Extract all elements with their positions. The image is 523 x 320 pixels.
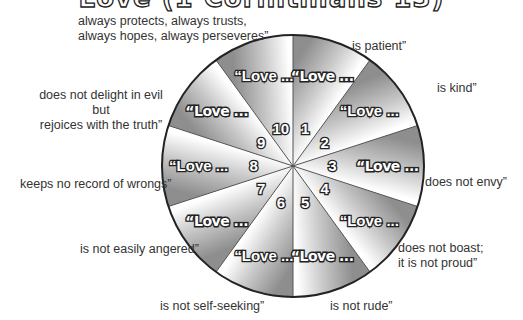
- segment-number: 4: [321, 180, 330, 197]
- segment-number: 10: [273, 120, 290, 137]
- love-label: “Love ...: [185, 103, 248, 119]
- label-segment-4: does not boast; it is not proud”: [398, 241, 483, 271]
- label-segment-1: is patient”: [352, 39, 406, 54]
- label-line: keeps no record of wrongs”: [20, 177, 171, 192]
- label-segment-2: is kind”: [437, 81, 477, 96]
- segment-number: 5: [301, 194, 309, 211]
- love-label: “Love ...: [234, 247, 293, 264]
- label-segment-7: is not easily angered”: [80, 242, 199, 257]
- label-line: is not easily angered”: [80, 242, 199, 257]
- label-segment-8: keeps no record of wrongs”: [20, 177, 171, 192]
- label-line: always protects, always trusts,: [78, 14, 268, 29]
- label-line: is kind”: [437, 81, 477, 96]
- label-line: is not self-seeking”: [160, 299, 264, 314]
- label-segment-6: is not self-seeking”: [160, 299, 264, 314]
- label-line: but: [36, 103, 166, 118]
- love-label: “Love ...: [169, 157, 228, 174]
- label-segment-3: does not envy”: [425, 175, 507, 190]
- segment-number: 7: [257, 180, 265, 197]
- segment-number: 6: [277, 194, 285, 211]
- label-line: does not delight in evil: [36, 88, 166, 103]
- label-line: is patient”: [352, 39, 406, 54]
- love-label: “Love ...: [234, 67, 293, 84]
- label-segment-10: always protects, always trusts, always h…: [78, 14, 268, 44]
- label-line: does not boast;: [398, 241, 483, 256]
- label-line: always hopes, always perseveres”: [78, 29, 268, 44]
- love-label: “Love ...: [185, 213, 248, 229]
- segment-number: 9: [257, 134, 265, 151]
- label-line: does not envy”: [425, 175, 507, 190]
- segment-number: 8: [250, 157, 258, 174]
- label-line: is not rude”: [330, 299, 393, 314]
- love-label: “Love ...: [356, 158, 419, 174]
- label-line: it is not proud”: [398, 256, 483, 271]
- love-wheel: “Love ...“Love ...“Love ...“Love ...“Lov…: [0, 0, 523, 320]
- love-label: “Love ...: [291, 248, 354, 264]
- segment-number: 3: [328, 157, 336, 174]
- love-label: “Love ...: [291, 68, 354, 84]
- label-line: rejoices with the truth”: [36, 118, 166, 133]
- segment-number: 1: [301, 120, 309, 137]
- segment-number: 2: [321, 134, 329, 151]
- label-segment-5: is not rude”: [330, 299, 393, 314]
- love-label: “Love ...: [340, 102, 399, 119]
- label-segment-9: does not delight in evil but rejoices wi…: [36, 88, 166, 133]
- love-label: “Love ...: [340, 212, 399, 229]
